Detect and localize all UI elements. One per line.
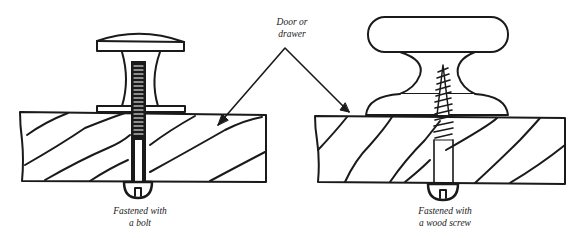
door-label-line2: drawer — [262, 28, 322, 40]
door-label-leaders — [218, 48, 349, 125]
bolt-caption: Fastened with a bolt — [100, 205, 180, 229]
screw-caption-line2: a wood screw — [395, 217, 495, 229]
screw-caption-line1: Fastened with — [395, 205, 495, 217]
right-knob — [366, 17, 508, 115]
bolt-caption-line1: Fastened with — [100, 205, 180, 217]
door-or-drawer-label: Door or drawer — [262, 16, 322, 40]
wood-screw-caption: Fastened with a wood screw — [395, 205, 495, 229]
right-board — [315, 116, 565, 184]
bolt-caption-line2: a bolt — [100, 217, 180, 229]
door-label-line1: Door or — [262, 16, 322, 28]
